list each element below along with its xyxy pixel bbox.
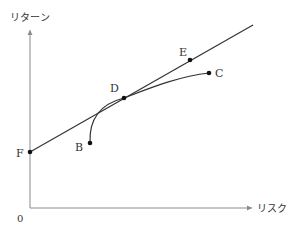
point-e: E [179,46,192,62]
x-axis-label: リスク [257,203,287,214]
svg-text:F: F [16,147,24,160]
capital-market-line [30,25,253,152]
svg-text:E: E [179,46,187,59]
point-d: D [110,82,126,100]
svg-text:B: B [75,141,83,154]
point-b: B [75,141,92,154]
point-c: C [207,67,224,80]
svg-text:C: C [215,67,223,80]
risk-return-diagram: リターン リスク 0 F B D E C [0,0,293,235]
svg-text:D: D [110,82,119,95]
y-axis-label: リターン [10,12,50,23]
origin-label: 0 [17,213,23,224]
